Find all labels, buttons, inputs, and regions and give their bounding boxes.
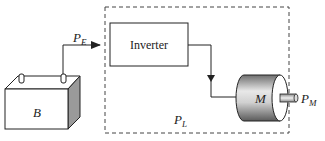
arrow-head-down [207,75,215,82]
battery: B [5,74,80,129]
battery-terminal-negative [19,74,24,83]
motor-shaft-end [294,94,298,102]
pe-label: PE [72,30,87,47]
pl-label: PL [173,112,187,129]
pm-label: PM [300,91,317,108]
inverter-label: Inverter [130,38,168,52]
motor: M [236,75,298,121]
arrow-head-pe [91,41,101,49]
motor-label: M [254,91,267,106]
powertrain-diagram: B PE Inverter M PM PL [0,0,325,141]
battery-terminal-positive [61,74,66,83]
inverter-block: Inverter [110,23,188,66]
wire-inverter-to-motor [188,45,236,97]
battery-label: B [33,105,41,120]
wire-battery-to-inverter [63,45,100,74]
battery-top-face [5,76,80,89]
